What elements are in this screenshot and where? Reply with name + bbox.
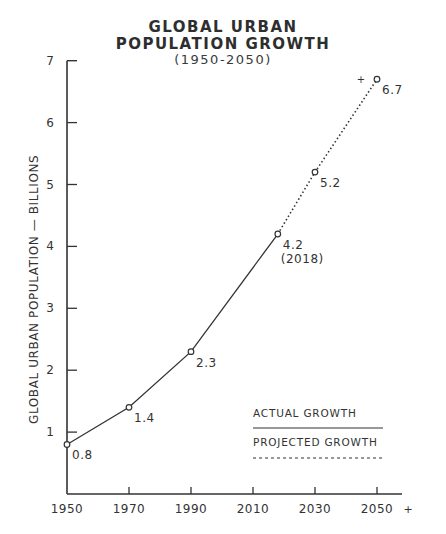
y-tick-label: 1 <box>46 425 54 439</box>
data-label: 0.8 <box>72 448 93 462</box>
x-tick-label: 1950 <box>51 502 84 516</box>
projected-growth-line <box>278 79 377 234</box>
data-label: 1.4 <box>134 411 155 425</box>
y-tick-label: 2 <box>46 363 54 377</box>
data-label: 2.3 <box>196 356 217 370</box>
data-point-marker <box>374 76 380 82</box>
data-point-marker <box>188 349 194 355</box>
y-tick-label: 5 <box>46 178 54 192</box>
data-label: 5.2 <box>320 176 341 190</box>
legend-projected-label: PROJECTED GROWTH <box>253 436 378 448</box>
plus-mark: + <box>357 74 365 85</box>
data-label: 4.2 <box>283 238 304 252</box>
x-tick-label: 1970 <box>113 502 146 516</box>
data-point-marker <box>312 169 318 175</box>
data-point-marker <box>64 442 70 448</box>
data-point-marker <box>126 405 132 411</box>
data-sublabel: (2018) <box>281 252 324 266</box>
data-label: 6.7 <box>382 83 403 97</box>
x-tick-label: 2010 <box>237 502 270 516</box>
y-tick-label: 7 <box>46 54 54 68</box>
x-tick-label: 2030 <box>299 502 332 516</box>
y-axis-label: GLOBAL URBAN POPULATION — BILLIONS <box>27 155 41 424</box>
x-tick-label: 1990 <box>175 502 208 516</box>
y-tick-label: 3 <box>46 301 54 315</box>
x-axis-plus-mark: + <box>403 503 412 516</box>
x-tick-label: 2050 <box>361 502 394 516</box>
y-tick-label: 6 <box>46 116 54 130</box>
legend-actual-label: ACTUAL GROWTH <box>253 407 357 419</box>
actual-growth-line <box>67 234 278 444</box>
data-point-marker <box>275 231 281 237</box>
y-tick-label: 4 <box>46 239 54 253</box>
line-chart: 1234567195019701990201020302050+GLOBAL U… <box>0 0 446 534</box>
